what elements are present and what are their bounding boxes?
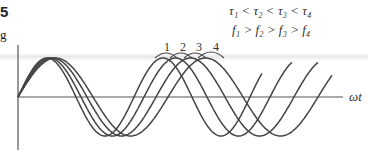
curve-label-1: 1 (164, 40, 170, 55)
curve-label-2: 2 (180, 40, 186, 55)
sine-wave-diagram (0, 0, 368, 156)
curve-label-3: 3 (196, 40, 202, 55)
curve-label-4: 4 (213, 40, 219, 55)
x-axis-label: ωt (349, 89, 362, 105)
